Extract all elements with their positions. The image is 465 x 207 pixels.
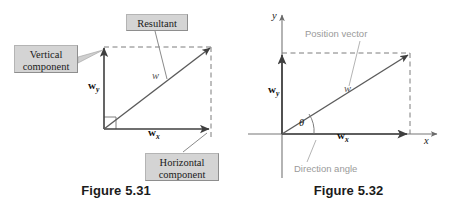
label-w-resultant-left: w [152, 70, 159, 81]
label-wx-left: wx [148, 126, 160, 141]
caption-figure-5-31: Figure 5.31 [0, 183, 232, 198]
dashed-rectangle-left [104, 47, 211, 137]
figure-pair-container: Vertical component Resultant Horizontal … [0, 0, 465, 207]
leader-direction-angle [307, 140, 316, 162]
leader-horizontal-component [183, 133, 207, 152]
label-wy-left: wy [88, 79, 99, 94]
label-wy-left-base: w [88, 79, 96, 91]
label-wx-right-base: w [337, 129, 345, 141]
resultant-vector [104, 48, 210, 129]
label-x-axis: x [424, 135, 429, 146]
label-wy-right-sub: y [276, 89, 279, 98]
callout-vertical-component: Vertical component [14, 45, 78, 73]
figure-5-31: Vertical component Resultant Horizontal … [0, 0, 232, 207]
label-wy-right-base: w [268, 83, 276, 95]
label-theta: θ [299, 117, 304, 128]
label-y-axis: y [272, 10, 277, 21]
callout-resultant: Resultant [126, 14, 188, 31]
label-wx-left-base: w [148, 126, 156, 138]
leader-position-vector [349, 41, 360, 86]
label-wy-right: wy [268, 83, 279, 98]
caption-figure-5-32: Figure 5.32 [232, 183, 465, 198]
annotation-direction-angle: Direction angle [294, 163, 357, 174]
annotation-position-vector: Position vector [305, 28, 367, 39]
label-wy-left-sub: y [96, 85, 99, 94]
figure-5-32: Position vector Direction angle wy wx w … [232, 0, 465, 207]
label-wx-left-sub: x [156, 132, 160, 141]
leader-vertical-component [78, 50, 103, 63]
callout-horizontal-component: Horizontal component [145, 153, 219, 181]
label-wx-right-sub: x [345, 135, 349, 144]
label-wx-right: wx [337, 129, 349, 144]
label-w-position-right: w [344, 83, 351, 94]
